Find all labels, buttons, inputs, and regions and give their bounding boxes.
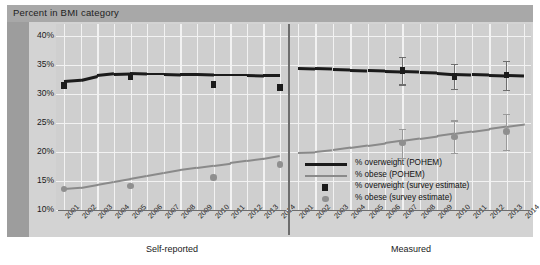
series-line-segment xyxy=(350,69,367,72)
series-line-segment xyxy=(298,151,315,154)
marker-overweight-survey xyxy=(277,84,283,91)
legend-label: % overweight (POHEM) xyxy=(355,158,442,167)
gridline-horizontal xyxy=(56,65,531,66)
series-line-segment xyxy=(298,67,315,70)
legend-circle-icon xyxy=(322,196,329,203)
gridline-vertical xyxy=(298,24,299,210)
gridline-horizontal xyxy=(56,36,531,37)
error-bar-cap xyxy=(451,89,458,90)
series-line-segment xyxy=(164,73,181,76)
error-bar-cap xyxy=(451,120,458,121)
marker-obese-survey xyxy=(503,128,510,135)
series-line-segment xyxy=(263,74,280,77)
gridline-vertical xyxy=(350,24,351,210)
error-bar-cap xyxy=(503,114,510,115)
y-axis-tick-label: 20% xyxy=(8,146,54,156)
panel-label-measured: Measured xyxy=(292,244,530,254)
gridline-vertical xyxy=(230,24,231,210)
series-line-segment xyxy=(147,73,164,76)
marker-obese-survey xyxy=(399,140,406,147)
error-bar-cap xyxy=(503,90,510,91)
gridline-vertical xyxy=(197,24,198,210)
y-axis-tick-label: 40% xyxy=(8,30,54,40)
y-axis-tick-label: 30% xyxy=(8,88,54,98)
series-line-segment xyxy=(180,73,197,76)
marker-overweight-survey xyxy=(400,67,406,74)
marker-obese-survey xyxy=(277,161,284,168)
series-line-segment xyxy=(247,74,264,77)
marker-obese-survey xyxy=(127,183,134,190)
marker-overweight-survey xyxy=(61,82,67,89)
marker-overweight-survey xyxy=(211,81,217,88)
marker-obese-survey xyxy=(451,134,458,141)
series-line-segment xyxy=(214,74,231,77)
error-bar-cap xyxy=(399,129,406,130)
gridline-vertical xyxy=(280,24,281,210)
error-bar-cap xyxy=(399,84,406,85)
gridline-vertical xyxy=(524,24,525,210)
y-axis-tick-label: 25% xyxy=(8,117,54,127)
gridline-vertical xyxy=(315,24,316,210)
marker-overweight-survey xyxy=(504,72,510,79)
gridline-vertical xyxy=(97,24,98,210)
legend-line-icon xyxy=(305,163,347,166)
gridline-vertical xyxy=(214,24,215,210)
legend-label: % obese (survey estimate) xyxy=(355,193,452,202)
series-line-segment xyxy=(230,74,247,77)
gridline-vertical xyxy=(147,24,148,210)
x-axis-line-right xyxy=(292,210,530,211)
y-axis-tick-label: 15% xyxy=(8,175,54,185)
y-axis-tick-label: 35% xyxy=(8,59,54,69)
gridline-vertical xyxy=(333,24,334,210)
gridline-vertical xyxy=(247,24,248,210)
error-bar-cap xyxy=(451,153,458,154)
gridline-vertical xyxy=(263,24,264,210)
x-axis-line-left xyxy=(58,210,286,211)
error-bar-cap xyxy=(503,150,510,151)
panel-label-self-reported: Self-reported xyxy=(58,244,286,254)
legend-square-icon xyxy=(322,184,328,191)
series-line-segment xyxy=(420,71,437,74)
legend-label: % obese (POHEM) xyxy=(355,170,425,179)
panel-separator xyxy=(288,24,290,235)
error-bar-cap xyxy=(399,57,406,58)
chart-figure: Percent in BMI category 40%35%30%25%20%1… xyxy=(0,0,540,265)
y-axis-ticks: 40%35%30%25%20%15%10% xyxy=(0,0,54,265)
error-bar-cap xyxy=(451,64,458,65)
marker-overweight-survey xyxy=(128,74,134,81)
legend-line-icon xyxy=(305,175,347,177)
gridline-vertical xyxy=(81,24,82,210)
gridline-vertical xyxy=(180,24,181,210)
gridline-horizontal xyxy=(56,94,531,95)
gridline-vertical xyxy=(64,24,65,210)
marker-obese-survey xyxy=(210,174,217,181)
gridline-horizontal xyxy=(56,152,531,153)
gridline-vertical xyxy=(164,24,165,210)
gridline-horizontal xyxy=(56,123,531,124)
error-bar-cap xyxy=(503,61,510,62)
gridline-vertical xyxy=(489,24,490,210)
legend-label: % overweight (survey estimate) xyxy=(355,181,469,190)
gridline-vertical xyxy=(472,24,473,210)
y-axis-tick-label: 10% xyxy=(8,204,54,214)
marker-overweight-survey xyxy=(452,73,458,80)
